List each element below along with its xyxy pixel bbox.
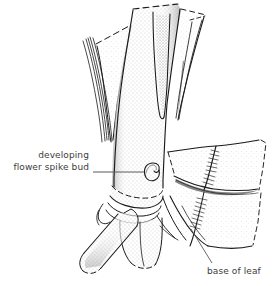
right-leaf-upper bbox=[168, 139, 266, 196]
label-bud-line2: flower spike bud bbox=[0, 162, 89, 174]
illustration-page: developing flower spike bud base of leaf bbox=[0, 0, 273, 286]
label-base-of-leaf: base of leaf bbox=[207, 266, 261, 278]
label-developing-flower-spike-bud: developing flower spike bud bbox=[0, 150, 89, 173]
label-bud-line1: developing bbox=[0, 150, 89, 162]
botanical-illustration bbox=[0, 0, 273, 286]
root-stub bbox=[97, 204, 110, 225]
figure-ink bbox=[80, 3, 266, 273]
label-leaf-line1: base of leaf bbox=[207, 266, 261, 278]
upper-right-blades bbox=[176, 9, 206, 120]
